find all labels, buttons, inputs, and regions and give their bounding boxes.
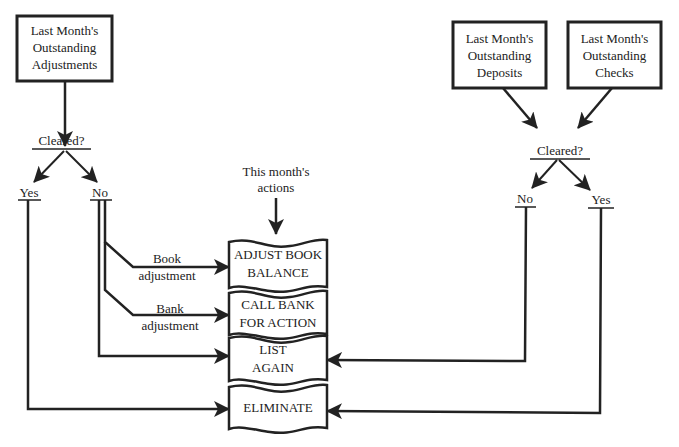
action-call-bank-label: CALL BANK FOR ACTION [229, 296, 327, 332]
text-line: Last Month's [17, 22, 112, 39]
book-adjustment-label: Book adjustment [135, 250, 199, 284]
action-adjust-book-label: ADJUST BOOK BALANCE [229, 246, 327, 282]
action-eliminate-label: ELIMINATE [229, 399, 327, 417]
left-yes-label: Yes [16, 185, 42, 201]
text-line: This month's [236, 164, 316, 180]
arrow-deposits-to-cleared [503, 88, 537, 128]
text-line: FOR ACTION [229, 314, 327, 332]
source-adjustments-label: Last Month's Outstanding Adjustments [17, 22, 112, 73]
text-line: Last Month's [568, 30, 661, 47]
text-line: Outstanding [17, 39, 112, 56]
text-line: AGAIN [224, 359, 322, 377]
text-line: Checks [568, 64, 661, 81]
left-cleared-label: Cleared? [32, 133, 91, 149]
left-no-label: No [89, 185, 111, 201]
text-line: Deposits [453, 64, 546, 81]
edge-right-yes-to-eliminate [327, 208, 601, 413]
text-line: Book [135, 250, 199, 267]
text-line: Outstanding [453, 47, 546, 64]
text-line: LIST [224, 341, 322, 359]
text-line: adjustment [135, 267, 199, 284]
right-no-label: No [514, 191, 536, 207]
text-line: ADJUST BOOK [229, 246, 327, 264]
this-month-actions-label: This month's actions [236, 164, 316, 196]
arrow-left-cleared-to-no [66, 151, 97, 182]
action-list-again-label: LIST AGAIN [224, 341, 322, 377]
right-cleared-label: Cleared? [530, 143, 590, 159]
arrow-right-cleared-to-no [532, 160, 557, 188]
text-line: adjustment [138, 317, 202, 334]
text-line: BALANCE [229, 264, 327, 282]
arrow-left-cleared-to-yes [34, 151, 64, 182]
text-line: Outstanding [568, 47, 661, 64]
bank-adjustment-label: Bank adjustment [138, 300, 202, 334]
text-line: CALL BANK [229, 296, 327, 314]
text-line: Adjustments [17, 56, 112, 73]
arrow-checks-to-cleared [578, 88, 612, 128]
text-line: Last Month's [453, 30, 546, 47]
edge-right-no-to-list-again [327, 207, 526, 361]
source-deposits-label: Last Month's Outstanding Deposits [453, 30, 546, 81]
text-line: ELIMINATE [229, 399, 327, 417]
text-line: actions [236, 180, 316, 196]
text-line: Bank [138, 300, 202, 317]
source-checks-label: Last Month's Outstanding Checks [568, 30, 661, 81]
arrow-right-cleared-to-yes [559, 160, 590, 190]
right-yes-label: Yes [587, 192, 615, 208]
